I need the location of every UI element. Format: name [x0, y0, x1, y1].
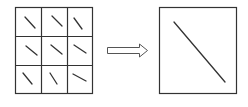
result-box	[160, 8, 237, 94]
grid-border	[16, 8, 93, 94]
orientation-segment	[23, 73, 32, 84]
orientation-segment	[26, 46, 37, 55]
orientation-segment	[74, 45, 86, 53]
result-diagonal-line	[174, 22, 225, 82]
orientation-grid	[16, 8, 93, 94]
orientation-segment	[50, 73, 57, 84]
orientation-segment	[74, 18, 82, 29]
orientation-segment	[25, 17, 35, 28]
orientation-segment	[51, 45, 62, 54]
orientation-segment	[73, 74, 86, 81]
orientation-segments	[23, 16, 86, 84]
right-arrow-icon	[108, 44, 148, 57]
diagram-canvas	[0, 0, 248, 107]
orientation-segment	[52, 16, 62, 26]
